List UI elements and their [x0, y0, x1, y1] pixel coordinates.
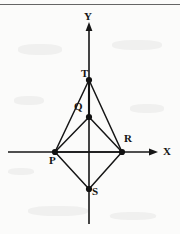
x-axis-arrowhead	[149, 149, 158, 156]
geometry-diagram-svg	[0, 0, 180, 234]
x-axis-label: X	[163, 146, 171, 157]
segment-R-S	[89, 152, 122, 189]
vertex-label-s: S	[92, 186, 98, 197]
segment-T-R	[89, 80, 122, 152]
segment-Q-P	[55, 117, 89, 152]
vertex-label-r: R	[124, 133, 132, 144]
segment-P-S	[55, 152, 89, 189]
figure-canvas: Y X T Q P R S	[0, 0, 180, 234]
segment-Q-R	[89, 117, 122, 152]
vertex-label-p: P	[49, 155, 56, 166]
y-axis-label: Y	[84, 11, 92, 22]
vertex-label-t: T	[81, 68, 88, 79]
vertex-label-q: Q	[74, 101, 83, 112]
vertex-dot-R	[119, 149, 125, 155]
y-axis-arrowhead	[86, 22, 93, 31]
vertex-dot-Q	[86, 114, 92, 120]
segment-T-P	[55, 80, 89, 152]
